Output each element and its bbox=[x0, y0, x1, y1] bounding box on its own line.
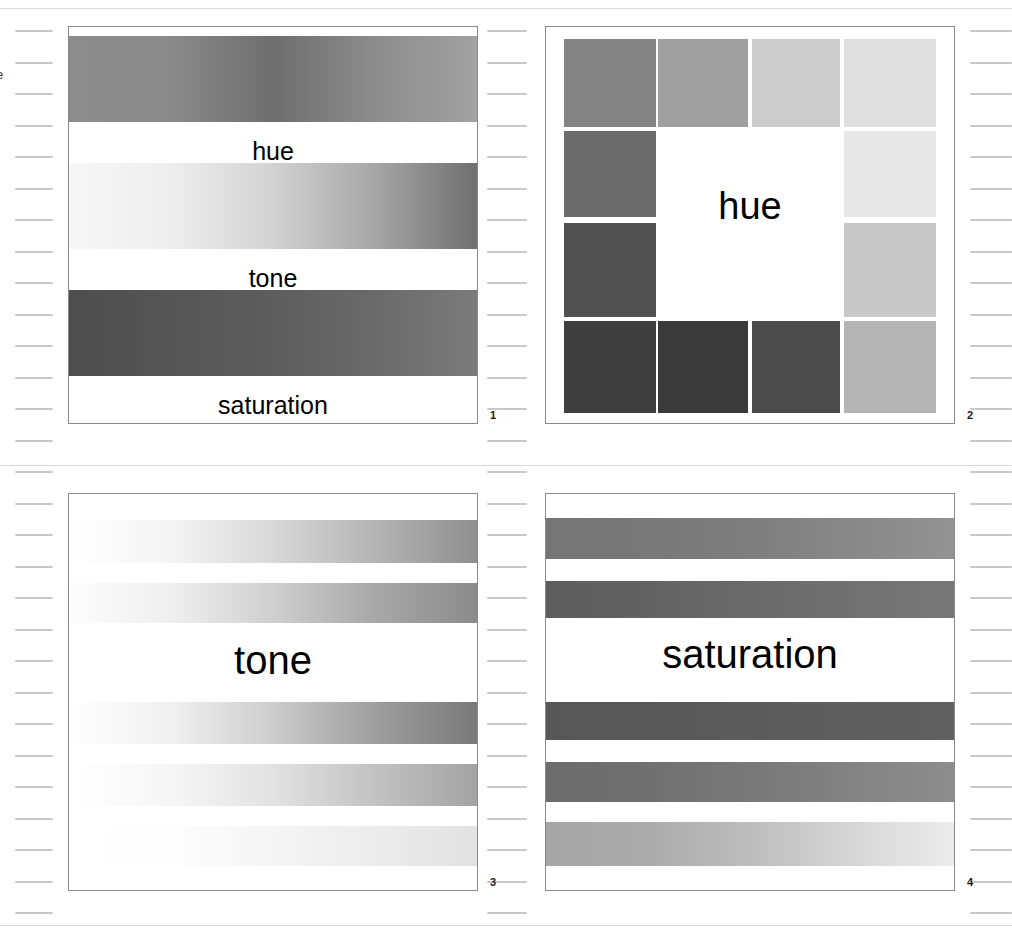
ruler-tick bbox=[487, 660, 527, 662]
ruler-tick bbox=[970, 786, 1012, 788]
ruler-tick bbox=[970, 282, 1012, 284]
ruler-tick bbox=[487, 440, 527, 442]
ruler-tick bbox=[15, 251, 53, 253]
ruler-tick bbox=[970, 755, 1012, 757]
tone-band-3 bbox=[69, 702, 477, 744]
ruler-tick bbox=[15, 282, 53, 284]
ruler-tick bbox=[15, 660, 53, 662]
tone-band-label: tone bbox=[69, 266, 477, 291]
ruler-tick bbox=[970, 314, 1012, 316]
ruler-tick bbox=[15, 786, 53, 788]
ruler-tick bbox=[970, 62, 1012, 64]
tone-band bbox=[69, 163, 477, 249]
ruler-tick bbox=[487, 251, 527, 253]
ruler-tick bbox=[970, 692, 1012, 694]
ruler-tick bbox=[487, 755, 527, 757]
ruler-tick bbox=[487, 912, 527, 914]
ruler-tick bbox=[15, 849, 53, 851]
ruler-tick bbox=[15, 912, 53, 914]
ruler-tick bbox=[15, 125, 53, 127]
swatch-bottom-3[interactable] bbox=[752, 321, 840, 413]
swatch-bottom-1[interactable] bbox=[564, 321, 656, 413]
ruler-tick bbox=[970, 566, 1012, 568]
panel-number-1: 1 bbox=[490, 410, 496, 421]
ruler-tick bbox=[15, 723, 53, 725]
saturation-band-label: saturation bbox=[69, 393, 477, 418]
panel-center-label: hue bbox=[546, 187, 954, 225]
swatch-right-2[interactable] bbox=[844, 223, 936, 317]
ruler-tick bbox=[15, 755, 53, 757]
ruler-tick bbox=[15, 440, 53, 442]
ruler-tick bbox=[15, 818, 53, 820]
ruler-tick bbox=[15, 471, 53, 473]
ruler-tick bbox=[970, 818, 1012, 820]
ruler-tick bbox=[970, 251, 1012, 253]
hue-band bbox=[69, 36, 477, 122]
ruler-tick bbox=[970, 377, 1012, 379]
ruler-tick bbox=[487, 62, 527, 64]
ruler-tick bbox=[15, 30, 53, 32]
panel-hue-swatch-ring[interactable]: hue bbox=[545, 26, 955, 424]
ruler-tick bbox=[487, 93, 527, 95]
ruler-tick bbox=[15, 219, 53, 221]
tone-band-2 bbox=[69, 583, 477, 623]
ruler-tick bbox=[15, 503, 53, 505]
ruler-tick bbox=[970, 912, 1012, 914]
panel-center-label: tone bbox=[69, 640, 477, 680]
ruler-tick bbox=[15, 881, 53, 883]
panel-tone-bands[interactable]: tone bbox=[68, 493, 478, 891]
ruler-tick bbox=[970, 188, 1012, 190]
ruler-tick bbox=[487, 629, 527, 631]
ruler-tick bbox=[15, 566, 53, 568]
ruler-tick bbox=[487, 314, 527, 316]
saturation-band-3 bbox=[546, 702, 954, 740]
middle-ruler bbox=[487, 0, 527, 936]
ruler-tick bbox=[970, 156, 1012, 158]
swatch-bottom-2[interactable] bbox=[658, 321, 748, 413]
ruler-tick bbox=[970, 723, 1012, 725]
ruler-tick bbox=[487, 849, 527, 851]
swatch-bottom-4[interactable] bbox=[844, 321, 936, 413]
tone-band-5 bbox=[69, 826, 477, 866]
ruler-tick bbox=[970, 881, 1012, 883]
left-ruler bbox=[15, 0, 53, 936]
ruler-tick bbox=[487, 219, 527, 221]
hue-band-label: hue bbox=[69, 139, 477, 164]
tone-band-1 bbox=[69, 520, 477, 563]
tone-band-4 bbox=[69, 764, 477, 806]
margin-cropped-glyph: e bbox=[0, 68, 3, 81]
ruler-tick bbox=[487, 818, 527, 820]
ruler-tick bbox=[15, 93, 53, 95]
ruler-tick bbox=[15, 534, 53, 536]
panel-number-4: 4 bbox=[967, 877, 973, 888]
ruler-tick bbox=[487, 282, 527, 284]
swatch-top-2[interactable] bbox=[658, 39, 748, 127]
ruler-tick bbox=[15, 156, 53, 158]
panel-hue-tone-saturation[interactable]: huetonesaturation bbox=[68, 26, 478, 424]
panel-center-label: saturation bbox=[546, 634, 954, 674]
ruler-tick bbox=[15, 408, 53, 410]
saturation-band-2 bbox=[546, 581, 954, 618]
ruler-tick bbox=[15, 188, 53, 190]
swatch-top-1[interactable] bbox=[564, 39, 656, 127]
ruler-tick bbox=[487, 723, 527, 725]
ruler-tick bbox=[970, 30, 1012, 32]
ruler-tick bbox=[487, 471, 527, 473]
ruler-tick bbox=[487, 125, 527, 127]
ruler-tick bbox=[970, 219, 1012, 221]
ruler-tick bbox=[487, 377, 527, 379]
ruler-tick bbox=[15, 597, 53, 599]
swatch-top-3[interactable] bbox=[752, 39, 840, 127]
saturation-band-5 bbox=[546, 822, 954, 866]
ruler-tick bbox=[970, 660, 1012, 662]
swatch-top-4[interactable] bbox=[844, 39, 936, 127]
swatch-left-2[interactable] bbox=[564, 223, 656, 317]
ruler-tick bbox=[487, 692, 527, 694]
ruler-tick bbox=[970, 503, 1012, 505]
ruler-tick bbox=[15, 345, 53, 347]
saturation-band bbox=[69, 290, 477, 376]
ruler-tick bbox=[487, 188, 527, 190]
ruler-tick bbox=[970, 471, 1012, 473]
panel-saturation-bands[interactable]: saturation bbox=[545, 493, 955, 891]
right-ruler bbox=[970, 0, 1012, 936]
